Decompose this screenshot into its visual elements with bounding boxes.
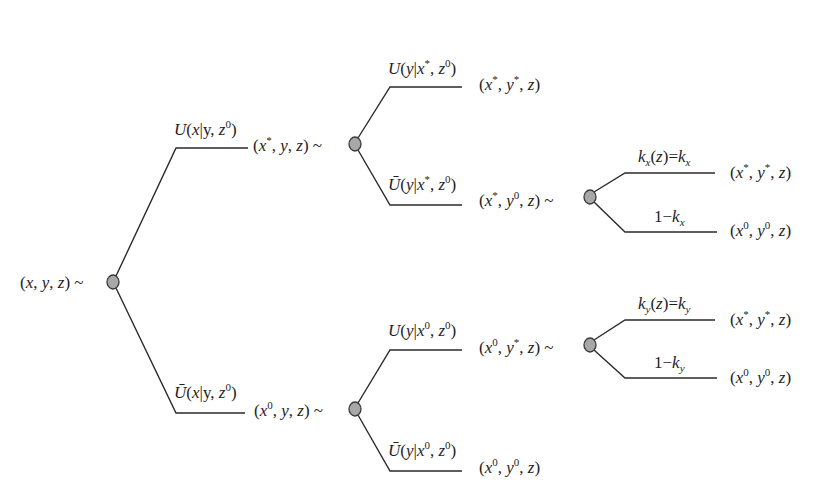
edge-label-d-up: ky(z)=ky xyxy=(638,295,690,312)
outcome-b-down: (x0, y0, z) xyxy=(479,459,540,476)
node-c xyxy=(584,190,596,204)
edge-label-d-down: 1−ky xyxy=(654,354,685,371)
node-root xyxy=(107,275,119,289)
node-b-state-label: (x0, y, z) ~ xyxy=(254,402,323,419)
edge-root-up xyxy=(116,148,248,276)
node-d xyxy=(584,338,596,352)
edge-c-up xyxy=(594,173,715,192)
root-state-label: (x, y, z) ~ xyxy=(20,274,84,291)
node-a xyxy=(349,137,361,151)
outcome-d-down: (x0, y0, z) xyxy=(730,369,791,386)
node-a-state-label: (x*, y, z) ~ xyxy=(253,137,322,154)
edge-label-c-down: 1−kx xyxy=(654,208,685,225)
edge-label-c-up: kx(z)=kx xyxy=(638,148,690,165)
node-d-state-label: (x0, y*, z) ~ xyxy=(479,339,554,356)
edge-label-a-down: Ū(y|x*, z0) xyxy=(388,176,456,193)
outcome-c-up: (x*, y*, z) xyxy=(730,164,791,181)
edge-b-up xyxy=(358,350,462,403)
node-b xyxy=(349,402,361,416)
node-c-state-label: (x*, y0, z) ~ xyxy=(479,192,554,209)
edge-label-b-up: U(y|x0, z0) xyxy=(388,322,456,339)
edge-label-root-up: U(x|y, z0) xyxy=(174,121,237,138)
outcome-a-up: (x*, y*, z) xyxy=(479,76,540,93)
outcome-d-up: (x*, y*, z) xyxy=(730,311,791,328)
edge-label-root-down: Ū(x|y, z0) xyxy=(174,384,237,401)
edge-d-up xyxy=(594,320,715,340)
edge-label-a-up: U(y|x*, z0) xyxy=(388,60,456,77)
edge-a-up xyxy=(358,87,462,138)
outcome-c-down: (x0, y0, z) xyxy=(730,222,791,239)
edge-label-b-down: Ū(y|x0, z0) xyxy=(388,442,456,459)
